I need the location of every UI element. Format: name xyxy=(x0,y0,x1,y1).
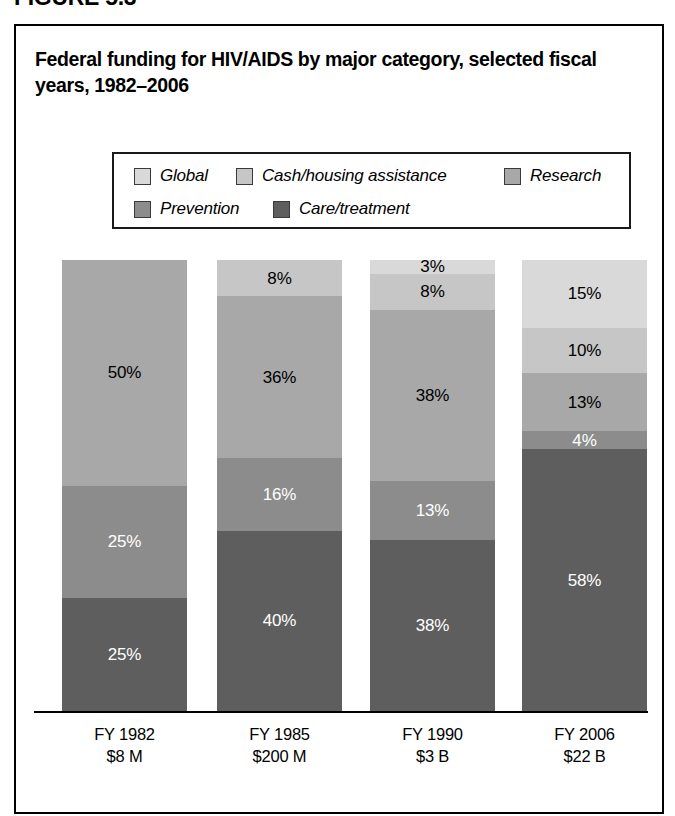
bar-segment-value: 50% xyxy=(108,364,142,381)
x-tick-amount: $22 B xyxy=(515,745,655,767)
x-tick-label-fy-1990: FY 1990$3 B xyxy=(363,723,503,767)
x-tick-year: FY 2006 xyxy=(554,725,615,743)
bar-segment-global: 15% xyxy=(522,260,647,328)
x-tick-label-fy-1985: FY 1985$200 M xyxy=(210,723,350,767)
bar-segment-prevention: 25% xyxy=(62,486,187,599)
bar-segment-cash-housing-assistance: 10% xyxy=(522,328,647,373)
bar-segment-value: 15% xyxy=(568,285,602,302)
bar-segment-research: 36% xyxy=(217,296,342,458)
bar-segment-value: 8% xyxy=(267,270,291,287)
bar-fy-2006: 15%10%13%4%58% xyxy=(522,260,647,711)
x-tick-amount: $200 M xyxy=(210,745,350,767)
bar-segment-care-treatment: 38% xyxy=(370,540,495,711)
bar-segment-prevention: 4% xyxy=(522,431,647,449)
figure-frame: Federal funding for HIV/AIDS by major ca… xyxy=(14,24,664,814)
bar-segment-care-treatment: 40% xyxy=(217,531,342,711)
figure-caption: FIGURE 5.3 xyxy=(14,0,136,8)
bar-segment-cash-housing-assistance: 8% xyxy=(217,260,342,296)
bar-segment-value: 16% xyxy=(263,486,297,503)
bar-fy-1990: 3%8%38%13%38% xyxy=(370,260,495,711)
bar-segment-care-treatment: 58% xyxy=(522,449,647,711)
x-axis-line xyxy=(34,711,648,713)
bar-segment-global: 3% xyxy=(370,260,495,274)
x-tick-year: FY 1985 xyxy=(249,725,310,743)
bar-segment-value: 25% xyxy=(108,533,142,550)
bar-segment-value: 38% xyxy=(416,617,450,634)
bar-segment-prevention: 16% xyxy=(217,458,342,530)
bar-segment-care-treatment: 25% xyxy=(62,598,187,711)
bar-segment-value: 4% xyxy=(572,432,596,449)
x-tick-label-fy-1982: FY 1982$8 M xyxy=(55,723,195,767)
bar-segment-research: 50% xyxy=(62,260,187,486)
bar-segment-cash-housing-assistance: 8% xyxy=(370,274,495,310)
bar-segment-research: 13% xyxy=(522,373,647,432)
bar-segment-value: 25% xyxy=(108,646,142,663)
bar-fy-1982: 50%25%25% xyxy=(62,260,187,711)
bar-segment-value: 38% xyxy=(416,387,450,404)
x-tick-label-fy-2006: FY 2006$22 B xyxy=(515,723,655,767)
bar-segment-value: 58% xyxy=(568,572,602,589)
x-tick-amount: $8 M xyxy=(55,745,195,767)
bar-segment-value: 36% xyxy=(263,369,297,386)
bar-segment-value: 13% xyxy=(416,502,450,519)
bar-fy-1985: 8%36%16%40% xyxy=(217,260,342,711)
bar-segment-value: 40% xyxy=(263,612,297,629)
bar-segment-value: 10% xyxy=(568,342,602,359)
bar-segment-value: 8% xyxy=(420,283,444,300)
bar-segment-research: 38% xyxy=(370,310,495,481)
x-tick-year: FY 1990 xyxy=(402,725,463,743)
x-tick-amount: $3 B xyxy=(363,745,503,767)
bar-segment-prevention: 13% xyxy=(370,481,495,540)
chart-plot-area: 50%25%25%8%36%16%40%3%8%38%13%38%15%10%1… xyxy=(16,26,666,816)
bar-segment-value: 13% xyxy=(568,394,602,411)
x-tick-year: FY 1982 xyxy=(94,725,155,743)
